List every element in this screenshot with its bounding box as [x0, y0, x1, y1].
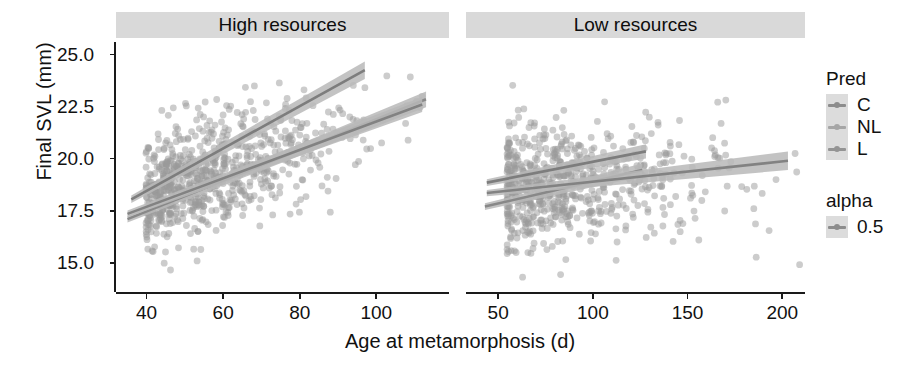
facet-strip-label: High resources: [219, 14, 347, 36]
x-axis-tick-mark: [592, 294, 594, 299]
x-axis-line: [116, 292, 449, 294]
scatter-plot-figure: Final SVL (mm) Age at metamorphosis (d) …: [0, 0, 918, 370]
x-axis-tick-mark: [299, 294, 301, 299]
y-axis-tick-label: 20.0: [32, 148, 94, 170]
legend-title-pred: Pred: [826, 68, 866, 90]
panel-canvas: [466, 42, 805, 292]
x-axis-tick-label: 60: [213, 302, 234, 324]
y-axis-tick-label: 22.5: [32, 96, 94, 118]
legend-key-point-C: [834, 102, 840, 108]
legend-key-point-0.5: [834, 224, 840, 230]
x-axis-tick-label: 80: [289, 302, 310, 324]
legend-item-label-L[interactable]: L: [857, 138, 868, 160]
legend-key-point-L: [834, 146, 840, 152]
panel-canvas: [116, 42, 449, 292]
legend-title-alpha: alpha: [826, 190, 873, 212]
x-axis-tick-label: 50: [488, 302, 509, 324]
x-axis-tick-label: 100: [577, 302, 609, 324]
x-axis-tick-mark: [687, 294, 689, 299]
panel-high-resources: [116, 42, 449, 292]
x-axis-tick-label: 100: [360, 302, 392, 324]
x-axis-tick-label: 40: [136, 302, 157, 324]
y-axis-tick-label: 17.5: [32, 200, 94, 222]
x-axis-tick-mark: [781, 294, 783, 299]
x-axis-tick-mark: [146, 294, 148, 299]
x-axis-line: [466, 292, 805, 294]
facet-strip-low-resources: Low resources: [466, 12, 805, 38]
x-axis-tick-label: 150: [672, 302, 704, 324]
panel-low-resources: [466, 42, 805, 292]
y-axis-tick-label: 25.0: [32, 44, 94, 66]
y-axis-tick-label: 15.0: [32, 252, 94, 274]
x-axis-tick-mark: [375, 294, 377, 299]
x-axis-tick-mark: [497, 294, 499, 299]
legend-item-label-C[interactable]: C: [857, 94, 871, 116]
x-axis-tick-label: 200: [766, 302, 798, 324]
legend-item-label-0.5[interactable]: 0.5: [857, 216, 883, 238]
x-axis-title: Age at metamorphosis (d): [115, 330, 805, 353]
legend-key-point-NL: [834, 124, 840, 130]
legend-item-label-NL[interactable]: NL: [857, 116, 881, 138]
x-axis-tick-mark: [222, 294, 224, 299]
facet-strip-high-resources: High resources: [116, 12, 449, 38]
facet-strip-label: Low resources: [574, 14, 698, 36]
